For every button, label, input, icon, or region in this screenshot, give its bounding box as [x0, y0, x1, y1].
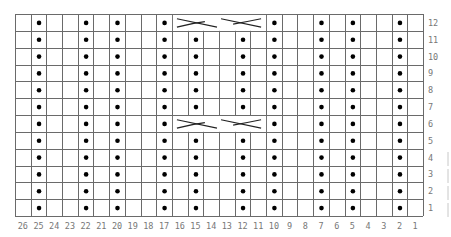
purl-dot-icon	[194, 54, 199, 59]
purl-dot-icon	[115, 37, 120, 42]
row-label: 12	[428, 18, 438, 28]
column-label: 9	[287, 221, 292, 231]
purl-dot-icon	[241, 172, 246, 177]
column-label: 25	[33, 221, 43, 231]
purl-dot-icon	[84, 122, 89, 127]
purl-dot-icon	[84, 138, 89, 143]
purl-dot-icon	[84, 172, 89, 177]
purl-dot-icon	[319, 37, 324, 42]
purl-dot-icon	[272, 88, 277, 93]
column-number-labels: 2625242322212019181716151413121110987654…	[18, 221, 418, 231]
purl-dot-icon	[398, 71, 403, 76]
purl-dot-icon	[351, 206, 356, 211]
row-label: 4	[428, 153, 433, 163]
purl-dot-icon	[272, 71, 277, 76]
purl-dot-icon	[115, 54, 120, 59]
purl-dot-icon	[84, 206, 89, 211]
column-label: 7	[318, 221, 323, 231]
purl-dot-icon	[241, 206, 246, 211]
purl-dot-icon	[162, 71, 167, 76]
purl-dot-icon	[398, 105, 403, 110]
purl-dot-icon	[194, 88, 199, 93]
purl-dot-icon	[351, 37, 356, 42]
row-number-labels: 121110987654321	[428, 18, 438, 213]
purl-dot-icon	[162, 155, 167, 160]
row-label: 8	[428, 85, 433, 95]
purl-dot-icon	[115, 21, 120, 26]
purl-dot-icon	[272, 37, 277, 42]
column-label: 21	[96, 221, 106, 231]
purl-dot-icon	[162, 138, 167, 143]
purl-dot-icon	[84, 21, 89, 26]
purl-dot-icon	[351, 54, 356, 59]
purl-dot-icon	[241, 155, 246, 160]
purl-dot-icon	[272, 122, 277, 127]
purl-dot-icon	[84, 88, 89, 93]
column-label: 10	[269, 221, 279, 231]
purl-dot-icon	[351, 21, 356, 26]
column-label: 19	[128, 221, 138, 231]
column-label: 18	[143, 221, 153, 231]
purl-dot-icon	[272, 172, 277, 177]
purl-dot-icon	[351, 88, 356, 93]
purl-dot-icon	[241, 37, 246, 42]
purl-dot-icon	[84, 155, 89, 160]
purl-dot-icon	[241, 54, 246, 59]
purl-dot-icon	[272, 105, 277, 110]
purl-dot-icon	[398, 206, 403, 211]
purl-dot-icon	[37, 88, 42, 93]
purl-dot-icon	[351, 138, 356, 143]
purl-dot-icon	[162, 206, 167, 211]
column-label: 20	[112, 221, 122, 231]
knitting-chart: 121110987654321 262524232221201918171615…	[0, 0, 451, 237]
column-label: 6	[334, 221, 339, 231]
purl-dot-icon	[272, 189, 277, 194]
purl-dot-icon	[272, 54, 277, 59]
purl-dot-icon	[398, 189, 403, 194]
purl-dot-icon	[351, 105, 356, 110]
purl-dot-icon	[37, 155, 42, 160]
purl-dot-icon	[194, 189, 199, 194]
purl-dot-icon	[194, 172, 199, 177]
purl-dot-icon	[162, 172, 167, 177]
purl-dot-icon	[115, 122, 120, 127]
purl-dot-icon	[115, 71, 120, 76]
cable-cell	[173, 15, 266, 31]
column-label: 12	[237, 221, 247, 231]
column-label: 13	[222, 221, 232, 231]
purl-dot-icon	[37, 54, 42, 59]
column-label: 11	[253, 221, 263, 231]
column-label: 26	[18, 221, 28, 231]
purl-dot-icon	[115, 105, 120, 110]
purl-dot-icon	[37, 37, 42, 42]
purl-dot-icon	[319, 21, 324, 26]
cable-cell	[173, 116, 266, 132]
purl-dot-icon	[84, 105, 89, 110]
row-label: 6	[428, 119, 433, 129]
purl-dot-icon	[84, 54, 89, 59]
purl-dot-icon	[115, 172, 120, 177]
column-label: 16	[175, 221, 185, 231]
purl-dot-icon	[272, 206, 277, 211]
purl-dot-icon	[162, 88, 167, 93]
purl-dot-icon	[162, 189, 167, 194]
purl-dot-icon	[319, 206, 324, 211]
row-label: 9	[428, 68, 433, 78]
row-label: 10	[428, 52, 438, 62]
purl-dot-icon	[194, 105, 199, 110]
purl-dot-icon	[162, 122, 167, 127]
purl-dot-icon	[272, 138, 277, 143]
purl-dot-icon	[115, 88, 120, 93]
purl-dot-icon	[319, 138, 324, 143]
purl-dot-icon	[351, 71, 356, 76]
purl-dot-icon	[398, 122, 403, 127]
purl-dot-icon	[319, 172, 324, 177]
purl-dot-icon	[115, 155, 120, 160]
purl-dot-icon	[398, 88, 403, 93]
purl-dot-icon	[272, 21, 277, 26]
purl-dot-icon	[37, 138, 42, 143]
purl-dot-icon	[398, 21, 403, 26]
purl-dot-icon	[194, 37, 199, 42]
column-label: 1	[413, 221, 418, 231]
purl-dot-icon	[84, 37, 89, 42]
